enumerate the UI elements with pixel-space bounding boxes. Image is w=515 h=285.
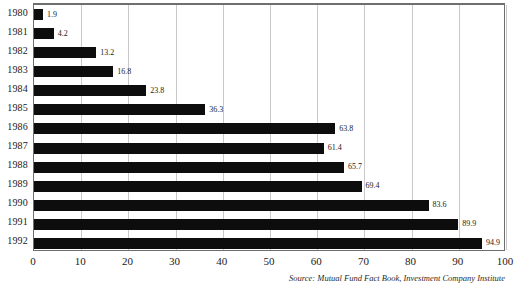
bar-value-label: 13.2 [100,49,114,57]
bar-value-label: 69.4 [366,182,380,190]
y-axis-label-1989: 1989 [7,175,28,194]
bar-row: 36.3 [34,100,504,119]
bar-row: 23.8 [34,81,504,100]
bar-series: 1.94.213.216.823.836.363.861.465.769.483… [34,5,504,250]
bar-value-label: 1.9 [47,11,57,19]
bar-value-label: 63.8 [339,125,353,133]
x-tick-50: 50 [264,256,275,267]
y-axis-label-1985: 1985 [7,98,28,117]
bar-row: 4.2 [34,24,504,43]
bar-1989 [34,181,362,192]
y-axis-label-1986: 1986 [7,117,28,136]
plot-area: 1.94.213.216.823.836.363.861.465.769.483… [33,3,505,251]
bar-value-label: 23.8 [150,87,164,95]
bar-1987 [34,143,324,154]
bar-row: 63.8 [34,119,504,138]
bar-1990 [34,200,429,211]
bar-value-label: 61.4 [328,144,342,152]
bar-1982 [34,47,96,58]
x-tick-100: 100 [497,256,514,267]
x-tick-10: 10 [75,256,86,267]
bar-row: 65.7 [34,158,504,177]
y-axis-label-1991: 1991 [7,213,28,232]
bar-row: 83.6 [34,196,504,215]
y-axis-category-labels: 1980198119821983198419851986198719881989… [0,3,31,251]
bar-1992 [34,238,482,249]
x-tick-20: 20 [122,256,133,267]
y-axis-label-1988: 1988 [7,156,28,175]
y-axis-label-1983: 1983 [7,60,28,79]
bar-1986 [34,123,335,134]
bar-row: 94.9 [34,234,504,253]
x-tick-80: 80 [405,256,416,267]
x-tick-70: 70 [358,256,369,267]
bar-1984 [34,85,146,96]
bar-row: 61.4 [34,139,504,158]
y-axis-label-1992: 1992 [7,232,28,251]
x-tick-60: 60 [311,256,322,267]
bar-value-label: 16.8 [117,68,131,76]
y-axis-label-1990: 1990 [7,194,28,213]
y-axis-label-1980: 1980 [7,3,28,22]
gridline [506,5,507,250]
x-tick-30: 30 [169,256,180,267]
bar-1988 [34,162,344,173]
x-tick-40: 40 [216,256,227,267]
x-axis-tick-labels: 0102030405060708090100 [33,256,505,272]
bar-1981 [34,28,54,39]
bar-1985 [34,104,205,115]
y-axis-label-1981: 1981 [7,22,28,41]
bar-row: 13.2 [34,43,504,62]
bar-value-label: 65.7 [348,163,362,171]
bar-row: 1.9 [34,5,504,24]
y-axis-label-1984: 1984 [7,79,28,98]
source-note: Source: Mutual Fund Fact Book, Investmen… [0,273,515,283]
bar-value-label: 94.9 [486,239,500,247]
bar-value-label: 4.2 [58,30,68,38]
x-tick-90: 90 [452,256,463,267]
y-axis-label-1987: 1987 [7,137,28,156]
bar-value-label: 89.9 [462,220,476,228]
bar-value-label: 83.6 [433,201,447,209]
y-axis-label-1982: 1982 [7,41,28,60]
bar-chart: 1980198119821983198419851986198719881989… [0,0,515,285]
bar-1983 [34,66,113,77]
bar-row: 16.8 [34,62,504,81]
x-tick-0: 0 [30,256,36,267]
bar-row: 69.4 [34,177,504,196]
bar-1991 [34,219,458,230]
bar-row: 89.9 [34,215,504,234]
bar-1980 [34,9,43,20]
bar-value-label: 36.3 [209,106,223,114]
